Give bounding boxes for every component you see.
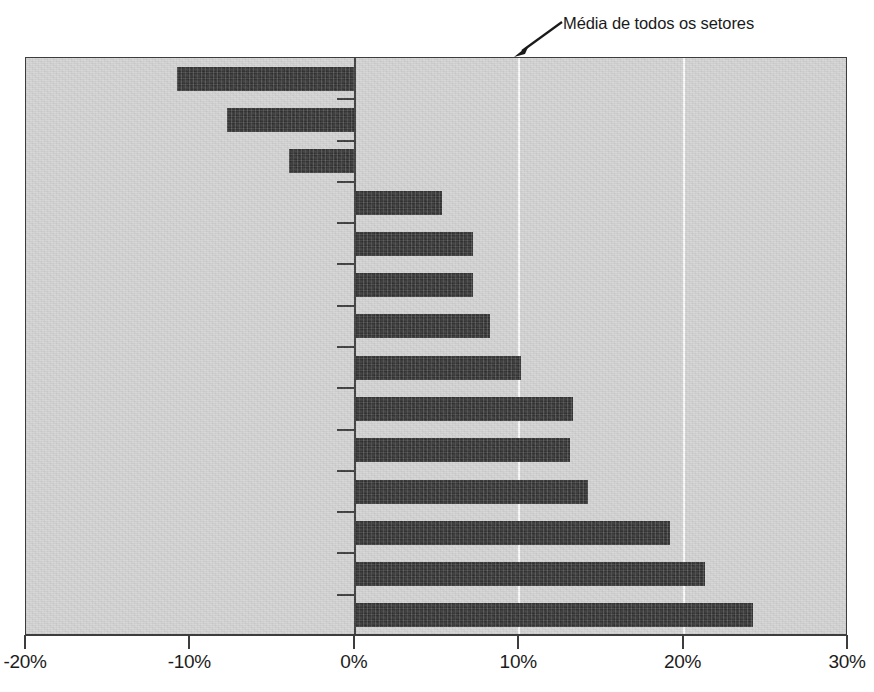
horizontal-bar-chart: Média de todos os setores ManufaturaAgri… bbox=[0, 0, 874, 692]
bar bbox=[355, 521, 671, 545]
gridline-10 bbox=[518, 58, 520, 634]
zero-axis-line bbox=[354, 58, 356, 634]
bar bbox=[355, 356, 521, 380]
bar bbox=[355, 562, 705, 586]
x-axis-tick-label: 10% bbox=[500, 651, 537, 673]
x-axis-tick-label: -20% bbox=[3, 651, 46, 673]
x-axis-tick-label: -10% bbox=[168, 651, 211, 673]
x-axis-tick-label: 20% bbox=[664, 651, 701, 673]
x-axis-tick bbox=[24, 635, 26, 649]
bar bbox=[355, 273, 473, 297]
bar bbox=[355, 232, 473, 256]
x-axis-tick bbox=[846, 635, 848, 649]
x-axis-tick bbox=[517, 635, 519, 649]
x-axis-tick-label: 30% bbox=[828, 651, 865, 673]
category-labels: ManufaturaAgricultura e mineraçãoGoverno… bbox=[0, 57, 354, 635]
x-axis-tick bbox=[188, 635, 190, 649]
bar bbox=[355, 314, 490, 338]
x-axis-tick bbox=[353, 635, 355, 649]
bar bbox=[355, 480, 588, 504]
x-axis-tick bbox=[682, 635, 684, 649]
gridline-20 bbox=[683, 58, 685, 634]
bar bbox=[355, 397, 574, 421]
x-axis-tick-label: 0% bbox=[340, 651, 367, 673]
average-all-sectors-annotation-label: Média de todos os setores bbox=[563, 14, 754, 33]
annotation-arrow-icon bbox=[500, 18, 570, 60]
bar bbox=[355, 603, 753, 627]
bar bbox=[355, 438, 570, 462]
bar bbox=[355, 191, 442, 215]
